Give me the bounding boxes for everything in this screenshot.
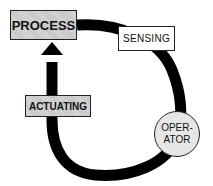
arrowhead-icon [41,42,63,55]
process-node: PROCESS [10,10,77,40]
sensing-label: SENSING [123,33,170,44]
sensing-node: SENSING [118,26,175,51]
operator-node: OPER- ATOR [154,111,200,157]
process-label: PROCESS [12,18,76,33]
operator-label-line1: OPER- [161,122,193,134]
operator-label-line2: ATOR [164,134,191,146]
actuating-node: ACTUATING [25,95,91,117]
actuating-label: ACTUATING [29,101,87,112]
control-loop-diagram: PROCESS SENSING ACTUATING OPER- ATOR [0,0,213,186]
